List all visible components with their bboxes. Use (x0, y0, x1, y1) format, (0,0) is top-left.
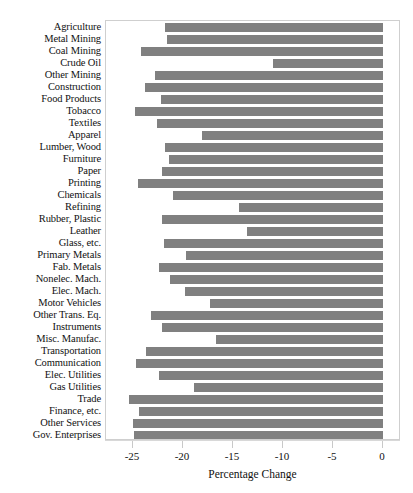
bar (247, 227, 383, 236)
category-label: Fab. Metals (0, 261, 101, 272)
category-label: Coal Mining (0, 45, 101, 56)
category-label: Elec. Utilities (0, 369, 101, 380)
bar (162, 215, 383, 224)
x-axis-line (105, 440, 400, 441)
category-label: Other Trans. Eq. (0, 309, 101, 320)
x-tick-label: -25 (112, 450, 152, 462)
category-label: Food Products (0, 93, 101, 104)
x-tick-label: -5 (312, 450, 352, 462)
category-label: Primary Metals (0, 249, 101, 260)
bar (134, 431, 383, 440)
bar (129, 395, 383, 404)
category-label: Transportation (0, 345, 101, 356)
bar (169, 155, 383, 164)
x-tick-label: -20 (162, 450, 202, 462)
category-label: Elec. Mach. (0, 285, 101, 296)
x-tick-label: -15 (212, 450, 252, 462)
category-label: Gov. Enterprises (0, 429, 101, 440)
bar (165, 143, 383, 152)
bar (161, 95, 383, 104)
bar (159, 263, 383, 272)
category-label: Gas Utilities (0, 381, 101, 392)
category-label: Construction (0, 81, 101, 92)
category-label: Furniture (0, 153, 101, 164)
bar (202, 131, 383, 140)
category-axis-labels: AgricultureMetal MiningCoal MiningCrude … (0, 20, 101, 440)
bar (151, 311, 383, 320)
bar (138, 179, 383, 188)
bar (159, 371, 383, 380)
x-tick-mark (332, 441, 333, 448)
category-label: Refining (0, 201, 101, 212)
plot-area (105, 20, 400, 440)
bar (157, 119, 383, 128)
bar (141, 47, 383, 56)
category-label: Tobacco (0, 105, 101, 116)
x-tick-label: -10 (262, 450, 302, 462)
category-label: Misc. Manufac. (0, 333, 101, 344)
bar (185, 287, 383, 296)
category-label: Agriculture (0, 21, 101, 32)
bar (165, 23, 383, 32)
category-label: Motor Vehicles (0, 297, 101, 308)
bar (133, 419, 383, 428)
category-label: Finance, etc. (0, 405, 101, 416)
bar (139, 407, 383, 416)
bar (273, 59, 383, 68)
category-label: Textiles (0, 117, 101, 128)
category-label: Crude Oil (0, 57, 101, 68)
bar (167, 35, 383, 44)
x-tick-mark (382, 441, 383, 448)
x-axis-title: Percentage Change (105, 468, 400, 480)
bar (145, 83, 383, 92)
category-label: Other Services (0, 417, 101, 428)
x-tick-label: 0 (362, 450, 402, 462)
bar (210, 299, 383, 308)
bar (136, 359, 383, 368)
bar (170, 275, 383, 284)
bar (146, 347, 383, 356)
bar (216, 335, 383, 344)
bar (162, 167, 383, 176)
category-label: Rubber, Plastic (0, 213, 101, 224)
category-label: Communication (0, 357, 101, 368)
x-tick-mark (232, 441, 233, 448)
category-label: Trade (0, 393, 101, 404)
category-label: Other Mining (0, 69, 101, 80)
bar (186, 251, 383, 260)
category-label: Apparel (0, 129, 101, 140)
category-label: Metal Mining (0, 33, 101, 44)
bar (239, 203, 383, 212)
bar (164, 239, 383, 248)
category-label: Instruments (0, 321, 101, 332)
x-tick-mark (182, 441, 183, 448)
bar (135, 107, 383, 116)
x-tick-mark (132, 441, 133, 448)
category-label: Paper (0, 165, 101, 176)
bar (155, 71, 383, 80)
category-label: Lumber, Wood (0, 141, 101, 152)
category-label: Chemicals (0, 189, 101, 200)
category-label: Glass, etc. (0, 237, 101, 248)
bar (194, 383, 383, 392)
x-tick-mark (282, 441, 283, 448)
category-label: Nonelec. Mach. (0, 273, 101, 284)
bar (173, 191, 383, 200)
category-label: Leather (0, 225, 101, 236)
bar (162, 323, 383, 332)
category-label: Printing (0, 177, 101, 188)
bar-chart-figure: AgricultureMetal MiningCoal MiningCrude … (0, 0, 413, 493)
